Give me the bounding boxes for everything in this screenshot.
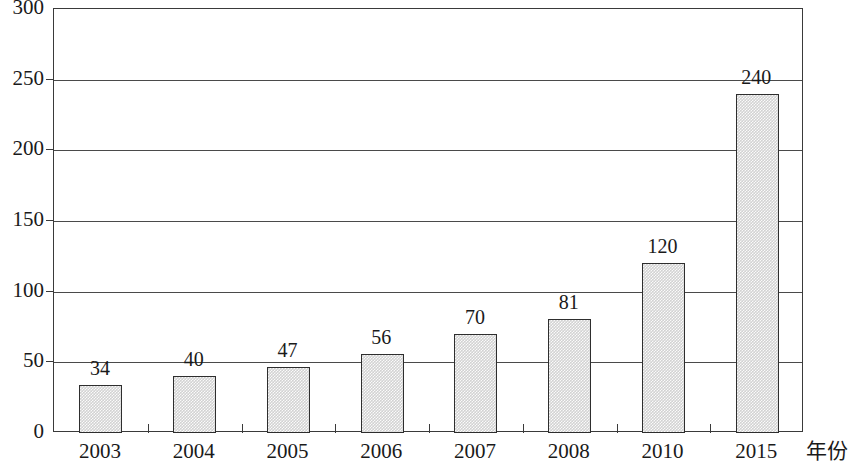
y-axis-tick-label: 300 bbox=[0, 0, 44, 18]
bar bbox=[79, 385, 122, 433]
y-axis-tick-mark bbox=[46, 149, 53, 150]
x-axis-tick-label: 2008 bbox=[519, 440, 619, 462]
bar-value-label: 34 bbox=[60, 358, 140, 378]
y-axis-tick-mark bbox=[46, 361, 53, 362]
x-axis-tick-mark bbox=[523, 424, 524, 433]
bar-value-label: 120 bbox=[622, 236, 702, 256]
x-axis-tick-label: 2010 bbox=[612, 440, 712, 462]
bar bbox=[642, 263, 685, 433]
y-axis-tick-mark bbox=[46, 79, 53, 80]
y-axis-tick-label: 0 bbox=[0, 421, 44, 442]
y-axis-tick-mark bbox=[46, 220, 53, 221]
x-axis-tick-label: 2004 bbox=[144, 440, 244, 462]
y-axis-tick-label: 50 bbox=[0, 350, 44, 371]
y-axis-tick-label: 250 bbox=[0, 68, 44, 89]
bar bbox=[454, 334, 497, 433]
bar bbox=[548, 319, 591, 433]
bar-chart: 050100150200250300 344047567081120240 20… bbox=[0, 0, 853, 471]
gridline bbox=[54, 150, 802, 151]
bar bbox=[173, 376, 216, 433]
x-axis-tick-label: 2005 bbox=[237, 440, 337, 462]
bar bbox=[736, 94, 779, 433]
x-axis-tick-mark bbox=[429, 424, 430, 433]
x-axis-tick-label: 2015 bbox=[706, 440, 806, 462]
bar-value-label: 81 bbox=[529, 292, 609, 312]
gridline bbox=[54, 80, 802, 81]
bar bbox=[361, 354, 404, 433]
x-axis-tick-label: 2007 bbox=[425, 440, 525, 462]
gridline bbox=[54, 292, 802, 293]
bar-value-label: 70 bbox=[435, 307, 515, 327]
y-axis-tick-label: 200 bbox=[0, 138, 44, 159]
bar-value-label: 240 bbox=[716, 67, 796, 87]
x-axis-title: 年份 bbox=[806, 440, 848, 462]
bar-value-label: 40 bbox=[154, 349, 234, 369]
bar-value-label: 56 bbox=[341, 327, 421, 347]
y-axis-tick-mark bbox=[46, 291, 53, 292]
y-axis-tick-label: 150 bbox=[0, 209, 44, 230]
x-axis-tick-mark bbox=[335, 424, 336, 433]
gridline bbox=[54, 221, 802, 222]
x-axis-tick-label: 2003 bbox=[50, 440, 150, 462]
x-axis-tick-label: 2006 bbox=[331, 440, 431, 462]
bar-value-label: 47 bbox=[247, 340, 327, 360]
x-axis-tick-mark bbox=[710, 424, 711, 433]
x-axis-tick-mark bbox=[617, 424, 618, 433]
y-axis-tick-label: 100 bbox=[0, 280, 44, 301]
bar bbox=[267, 367, 310, 433]
x-axis-tick-mark bbox=[242, 424, 243, 433]
x-axis-tick-mark bbox=[148, 424, 149, 433]
